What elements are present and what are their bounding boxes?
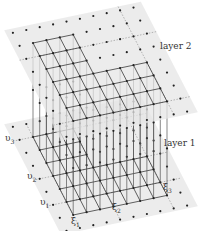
layer-1-vertex — [112, 177, 114, 179]
interlayer-dot — [159, 134, 161, 136]
layer-1-vertex — [153, 168, 155, 170]
layer-2-vertex — [146, 90, 148, 92]
layer-1-vertex — [72, 156, 74, 158]
layer-2-vertex — [79, 104, 81, 106]
layer-1-dot — [39, 178, 41, 180]
layer-2-dot — [52, 23, 54, 25]
layer-2-vertex — [59, 65, 61, 67]
layer-1-vertex — [126, 203, 128, 205]
layer-2-vertex — [106, 70, 108, 72]
layer-2-dot — [25, 29, 27, 31]
upsilon-3-label: υ3 — [5, 134, 14, 145]
layer-1-dot — [92, 224, 94, 226]
layer-2-dot — [139, 48, 141, 50]
layer-2-dot — [106, 41, 108, 43]
layer-1-dot — [119, 219, 121, 221]
lattice-diagram: layer 2 layer 1 υ3 υ2 υ1 ξ1 ξ2 ξ3 — [0, 0, 200, 231]
layer-1-vertex — [72, 185, 74, 187]
layer-1-vertex — [65, 201, 67, 203]
layer-2-dot — [119, 38, 121, 40]
upsilon-2-label: υ2 — [27, 172, 36, 183]
layer-2-dot — [119, 125, 121, 127]
layer-1-vertex — [132, 158, 134, 160]
layer-2-vertex — [72, 120, 74, 122]
layer-2-dot — [119, 9, 121, 11]
layer-2-vertex — [146, 61, 148, 63]
upsilon-1-label: υ1 — [40, 198, 49, 209]
layer-2-vertex — [106, 99, 108, 101]
layer-2-vertex — [59, 36, 61, 38]
layer-2-vertex — [92, 73, 94, 75]
layer-2-vertex — [159, 87, 161, 89]
layer-2-vertex — [45, 68, 47, 70]
lattice-figure — [0, 0, 200, 231]
layer-1-vertex — [99, 208, 101, 210]
layer-2-vertex — [86, 117, 88, 119]
layer-2-vertex — [79, 47, 81, 49]
layer-2-dot — [106, 127, 108, 129]
layer-1-label: layer 1 — [164, 139, 196, 148]
layer-1-vertex — [99, 180, 101, 182]
interlayer-dot — [39, 102, 41, 104]
layer-2-vertex — [119, 67, 121, 69]
layer-2-dot — [99, 57, 101, 59]
layer-2-dot — [39, 26, 41, 28]
layer-1-vertex — [79, 141, 81, 143]
layer-1-dot — [186, 205, 188, 207]
layer-2-vertex — [72, 91, 74, 93]
layer-1-vertex — [59, 159, 61, 161]
layer-1-dot — [19, 139, 21, 141]
xi-2-label: ξ2 — [112, 203, 121, 214]
interlayer-dot — [32, 89, 34, 91]
layer-2-vertex — [45, 39, 47, 41]
layer-1-vertex — [119, 161, 121, 163]
layer-1-vertex — [146, 155, 148, 157]
layer-1-dot — [45, 191, 47, 193]
layer-2-dot — [173, 85, 175, 87]
layer-2-vertex — [52, 81, 54, 83]
layer-2-dot — [126, 51, 128, 53]
layer-2-vertex — [99, 86, 101, 88]
layer-1-vertex — [146, 184, 148, 186]
layer-2-vertex — [112, 112, 114, 114]
layer-1-vertex — [65, 172, 67, 174]
layer-1-vertex — [166, 194, 168, 196]
layer-1-vertex — [159, 181, 161, 183]
layer-1-vertex — [45, 162, 47, 164]
layer-2-dot — [166, 72, 168, 74]
layer-1-dot — [159, 210, 161, 212]
layer-1-dot — [32, 165, 34, 167]
layer-2-dot — [92, 130, 94, 132]
layer-2-vertex — [99, 114, 101, 116]
layer-1-dot — [173, 207, 175, 209]
layer-2-dot — [132, 7, 134, 9]
layer-1-vertex — [86, 154, 88, 156]
layer-2-dot — [186, 111, 188, 113]
layer-1-vertex — [59, 188, 61, 190]
layer-2-vertex — [39, 55, 41, 57]
layer-2-vertex — [32, 42, 34, 44]
layer-2-vertex — [166, 100, 168, 102]
layer-1-dot — [179, 192, 181, 194]
layer-2-dot — [179, 98, 181, 100]
layer-2-dot — [132, 35, 134, 37]
layer-2-vertex — [153, 103, 155, 105]
layer-2-dot — [112, 25, 114, 27]
layer-1-dot — [173, 179, 175, 181]
layer-1-vertex — [52, 175, 54, 177]
layer-2-dot — [39, 84, 41, 86]
layer-2-dot — [19, 45, 21, 47]
layer-2-dot — [52, 110, 54, 112]
layer-1-vertex — [45, 133, 47, 135]
layer-2-vertex — [86, 60, 88, 62]
layer-1-vertex — [153, 197, 155, 199]
layer-1-vertex — [139, 171, 141, 173]
layer-2-vertex — [65, 49, 67, 51]
layer-2-dot — [65, 21, 67, 23]
layer-2-vertex — [92, 101, 94, 103]
layer-1-vertex — [126, 174, 128, 176]
layer-1-vertex — [119, 190, 121, 192]
layer-2-vertex — [112, 83, 114, 85]
layer-1-vertex — [92, 195, 94, 197]
layer-1-dot — [106, 221, 108, 223]
